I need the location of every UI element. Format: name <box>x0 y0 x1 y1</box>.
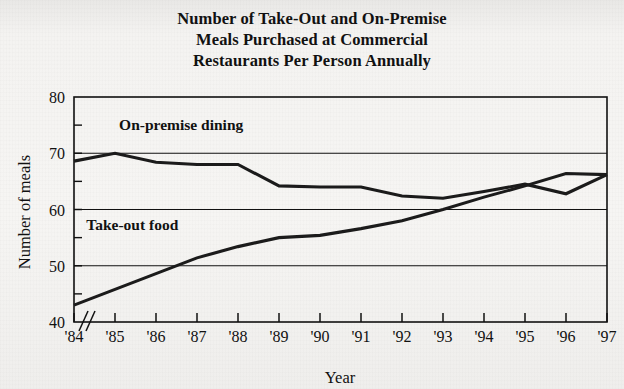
x-tick-label-87: '87 <box>188 328 207 345</box>
series-label-2: Take-out food <box>86 216 178 233</box>
series-line-1 <box>74 153 607 198</box>
x-axis-ticks-group <box>74 313 607 322</box>
x-tick-label-91: '91 <box>352 328 371 345</box>
line-chart-plot: 4050607080 '84'85'86'87'88'89'90'91'92'9… <box>0 0 624 389</box>
y-tick-label-60: 60 <box>49 202 65 219</box>
x-tick-label-93: '93 <box>434 328 453 345</box>
x-tick-label-94: '94 <box>475 328 494 345</box>
y-axis-tick-labels: 4050607080 <box>49 89 65 331</box>
x-tick-label-85: '85 <box>106 328 125 345</box>
series-inline-labels: On-premise diningTake-out food <box>86 116 243 233</box>
y-axis-title: Number of meals <box>15 155 34 270</box>
x-tick-label-92: '92 <box>393 328 412 345</box>
x-tick-label-86: '86 <box>147 328 166 345</box>
gridlines-group <box>74 153 607 266</box>
x-tick-label-89: '89 <box>270 328 289 345</box>
figure-container: Number of Take-Out and On-Premise Meals … <box>0 0 624 389</box>
x-tick-label-96: '96 <box>557 328 576 345</box>
x-tick-label-90: '90 <box>311 328 330 345</box>
x-tick-label-88: '88 <box>229 328 248 345</box>
y-tick-label-80: 80 <box>49 89 65 106</box>
x-tick-label-84: '84 <box>65 328 84 345</box>
x-axis-title: Year <box>325 368 356 387</box>
x-tick-label-95: '95 <box>516 328 535 345</box>
x-tick-label-97: '97 <box>598 328 617 345</box>
y-tick-label-40: 40 <box>49 314 65 331</box>
y-tick-label-70: 70 <box>49 145 65 162</box>
y-axis-ticks-group <box>74 125 82 294</box>
series-line-2 <box>74 174 607 306</box>
series-label-1: On-premise dining <box>119 116 243 133</box>
x-axis-tick-labels: '84'85'86'87'88'89'90'91'92'93'94'95'96'… <box>65 328 617 345</box>
y-tick-label-50: 50 <box>49 258 65 275</box>
